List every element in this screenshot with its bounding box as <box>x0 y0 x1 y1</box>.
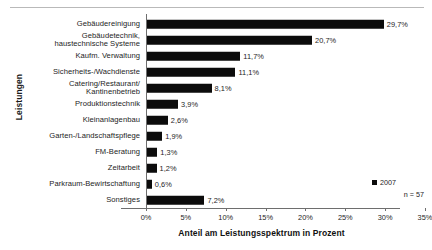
x-axis-tick <box>305 208 306 211</box>
bar <box>147 100 178 109</box>
category-label-row: Gebäudetechnik, haustechnische Systeme <box>25 32 144 48</box>
bar-row: 1,3% <box>146 144 425 160</box>
x-axis-tick <box>345 208 346 211</box>
category-label-row: Kaufm. Verwaltung <box>25 48 144 64</box>
x-axis-tick <box>266 208 267 211</box>
category-label: Produktionstechnik <box>75 100 140 108</box>
bar-value-label: 8,1% <box>215 84 232 93</box>
x-axis-title-text: Anteil am Leistungsspektrum in Prozent <box>86 228 344 238</box>
x-axis-tick-label: 0% <box>141 213 152 222</box>
bar-row: 1,9% <box>146 128 425 144</box>
category-label: Garten-/Landschaftspflege <box>49 132 140 140</box>
bar-row: 11,1% <box>146 64 425 80</box>
bar <box>147 164 157 173</box>
bar <box>147 180 152 189</box>
bar <box>147 148 157 157</box>
x-axis-title: Anteil am Leistungsspektrum in Prozent <box>0 228 431 238</box>
bar-value-label: 11,1% <box>238 68 259 77</box>
category-label-row: Kleinanlagenbau <box>25 112 144 128</box>
bar-value-label: 29,7% <box>387 20 408 29</box>
category-label-row: Catering/Restaurant/ Kantinenbetrieb <box>25 80 144 96</box>
x-axis-tick <box>146 208 147 211</box>
x-axis-tick-label: 30% <box>378 213 393 222</box>
top-divider-rule <box>10 7 424 8</box>
category-label-row: Sicherheits-/Wachdienste <box>25 64 144 80</box>
category-label: Kaufm. Verwaltung <box>75 52 140 60</box>
bar-value-label: 1,2% <box>160 164 177 173</box>
bar-value-label: 2,6% <box>171 116 188 125</box>
category-label-column: GebäudereinigungGebäudetechnik, haustech… <box>25 16 144 208</box>
x-axis-tick-label: 25% <box>338 213 353 222</box>
bar-row: 11,7% <box>146 48 425 64</box>
legend-series-label: 2007 <box>380 178 396 187</box>
category-label: Sonstiges <box>106 196 140 204</box>
bar <box>147 84 212 93</box>
bar <box>147 132 162 141</box>
bar-row: 1,2% <box>146 160 425 176</box>
category-label-row: Parkraum-Bewirtschaftung <box>25 176 144 192</box>
bar-value-label: 20,7% <box>315 36 336 45</box>
category-label: Parkraum-Bewirtschaftung <box>49 180 140 188</box>
bar-value-label: 1,3% <box>160 148 177 157</box>
bar-value-label: 3,9% <box>181 100 198 109</box>
legend-entry-2007: 2007 <box>372 177 428 188</box>
category-label-row: Zeitarbeit <box>25 160 144 176</box>
category-label: FM-Beratung <box>95 148 140 156</box>
category-label: Sicherheits-/Wachdienste <box>53 68 140 76</box>
category-label: Kleinanlagenbau <box>83 116 140 124</box>
bar <box>147 36 312 45</box>
category-label-row: Gebäudereinigung <box>25 16 144 32</box>
category-label: Zeitarbeit <box>108 164 140 172</box>
x-axis-tick-label: 20% <box>298 213 313 222</box>
legend-swatch-icon <box>372 180 377 185</box>
bar-row: 2,6% <box>146 112 425 128</box>
x-axis-line <box>121 208 400 209</box>
category-label: Catering/Restaurant/ Kantinenbetrieb <box>69 80 140 97</box>
category-label-row: Produktionstechnik <box>25 96 144 112</box>
plot-area: GebäudereinigungGebäudetechnik, haustech… <box>25 16 425 208</box>
x-axis-tick-label: 35% <box>418 213 432 222</box>
bar-value-label: 11,7% <box>243 52 264 61</box>
x-axis-tick <box>186 208 187 211</box>
bar-row: 20,7% <box>146 32 425 48</box>
bar <box>147 68 235 77</box>
bar-row: 3,9% <box>146 96 425 112</box>
x-axis-tick-label: 5% <box>181 213 192 222</box>
category-label: Gebäudereinigung <box>77 20 140 28</box>
bar-row: 29,7% <box>146 16 425 32</box>
category-label-row: Sonstiges <box>25 192 144 208</box>
bar <box>147 116 168 125</box>
y-axis-title: Leistungen <box>14 42 24 152</box>
legend-sample-size: n = 57 <box>372 190 428 199</box>
category-label-row: FM-Beratung <box>25 144 144 160</box>
bar-row: 8,1% <box>146 80 425 96</box>
bar <box>147 20 384 29</box>
x-axis-tick-label: 10% <box>218 213 233 222</box>
bar-value-label: 7,2% <box>207 196 224 205</box>
bar-value-label: 1,9% <box>165 132 182 141</box>
bar-value-label: 0,6% <box>155 180 172 189</box>
bar <box>147 196 204 205</box>
x-axis-tick-label: 15% <box>258 213 273 222</box>
category-label: Gebäudetechnik, haustechnische Systeme <box>54 32 140 49</box>
x-axis-tick <box>226 208 227 211</box>
chart-legend: 2007 n = 57 <box>372 177 428 199</box>
x-axis-tick <box>385 208 386 211</box>
x-axis-tick <box>425 208 426 211</box>
category-label-row: Garten-/Landschaftspflege <box>25 128 144 144</box>
bar <box>147 52 240 61</box>
